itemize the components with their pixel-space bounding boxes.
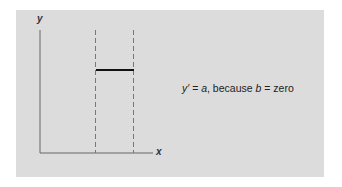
x-axis-label: x	[156, 146, 162, 157]
equation-because: , because	[207, 82, 255, 94]
equals-sign-2: =	[261, 82, 273, 94]
equation-text: y′ = a, because b = zero	[182, 82, 294, 94]
equation-rhs: zero	[273, 82, 293, 94]
equals-sign: =	[189, 82, 201, 94]
y-axis-label: y	[37, 13, 43, 24]
